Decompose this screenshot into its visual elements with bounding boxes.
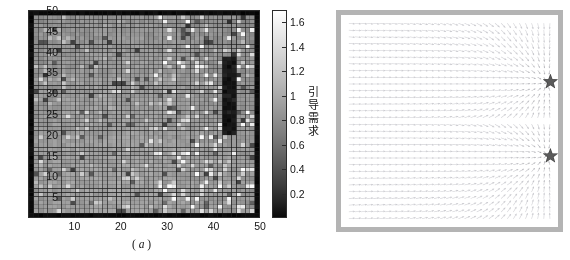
quiver-panel: ( b ) [330, 0, 570, 260]
colorbar-tickmark [282, 145, 287, 146]
colorbar-label-char-3: 需 [306, 112, 320, 125]
heatmap-panel: 5101520253035404550 1020304050 1.61.41.2… [0, 0, 330, 260]
colorbar-tick-0.6: 0.6 [290, 140, 305, 151]
colorbar-tickmark [282, 71, 287, 72]
colorbar-tick-1.6: 1.6 [290, 17, 305, 28]
colorbar-tick-0.4: 0.4 [290, 164, 305, 175]
vector-field-image [341, 15, 558, 227]
heatmap-xtick-30: 30 [154, 221, 180, 232]
quiver-axes [336, 10, 563, 232]
colorbar-label: 引 导 需 求 [306, 86, 320, 138]
colorbar-axis: 1.61.41.210.80.60.40.2 [0, 0, 58, 260]
colorbar-tickmark [282, 47, 287, 48]
figure-container: 5101520253035404550 1020304050 1.61.41.2… [0, 0, 570, 260]
colorbar-tickmark [282, 194, 287, 195]
colorbar-label-char-4: 求 [306, 125, 320, 138]
heatmap-xtick-40: 40 [201, 221, 227, 232]
colorbar-gradient [272, 10, 287, 218]
heatmap-xtick-20: 20 [108, 221, 134, 232]
colorbar-tickmark [282, 96, 287, 97]
colorbar-tickmark [282, 169, 287, 170]
colorbar-tick-1.2: 1.2 [290, 66, 305, 77]
panel-a-caption: ( a ) [132, 238, 151, 250]
heatmap-xtick-50: 50 [247, 221, 273, 232]
colorbar-label-char-1: 引 [306, 86, 320, 99]
heatmap-xtick-10: 10 [61, 221, 87, 232]
colorbar-tickmark [282, 120, 287, 121]
colorbar-tick-1.4: 1.4 [290, 42, 305, 53]
colorbar-tickmark [282, 22, 287, 23]
colorbar-tick-0.2: 0.2 [290, 189, 305, 200]
colorbar-tick-1: 1 [290, 91, 296, 102]
colorbar-label-char-2: 导 [306, 99, 320, 112]
caption-a-open: ( [132, 238, 136, 250]
colorbar-tick-0.8: 0.8 [290, 115, 305, 126]
caption-a-close: ) [147, 238, 151, 250]
caption-a-letter: a [139, 238, 145, 250]
